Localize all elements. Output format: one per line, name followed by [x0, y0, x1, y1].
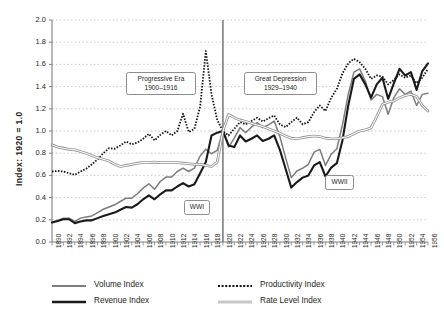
y-tick-label: 0.8 [20, 148, 46, 157]
x-tick-label: 1944 [362, 234, 369, 248]
x-tick-label: 1890 [55, 234, 62, 248]
x-tick-label: 1920 [226, 234, 233, 248]
annotation-great-depression: Great Depression1929–1940 [244, 72, 317, 95]
x-tick-label: 1938 [328, 234, 335, 248]
y-tick-label: 0.0 [20, 237, 46, 246]
axis-ticks [49, 20, 428, 246]
legend-swatches [0, 273, 444, 315]
x-tick-label: 1916 [203, 234, 210, 248]
x-tick-label: 1900 [112, 234, 119, 248]
annotation-line-1: Progressive Era [131, 75, 191, 84]
x-tick-label: 1908 [157, 234, 164, 248]
x-tick-label: 1912 [180, 234, 187, 248]
y-tick-label: 0.4 [20, 193, 46, 202]
annotation-progressive-era: Progressive Era1900–1916 [126, 72, 196, 95]
y-tick-label: 1.4 [20, 82, 46, 91]
x-tick-label: 1906 [146, 234, 153, 248]
x-tick-label: 1922 [237, 234, 244, 248]
y-tick-label: 2.0 [20, 15, 46, 24]
y-tick-label: 1.6 [20, 59, 46, 68]
annotation-line-2: 1900–1916 [131, 84, 191, 93]
x-tick-label: 1948 [385, 234, 392, 248]
y-tick-label: 0.6 [20, 170, 46, 179]
x-tick-label: 1896 [89, 234, 96, 248]
x-tick-label: 1940 [339, 234, 346, 248]
legend-item-volume-index: Volume Index [94, 280, 144, 289]
x-tick-label: 1924 [248, 234, 255, 248]
x-tick-label: 1892 [66, 234, 73, 248]
x-tick-label: 1914 [191, 234, 198, 248]
annotation-line-1: WWII [330, 178, 349, 187]
x-tick-label: 1918 [214, 234, 221, 248]
x-tick-label: 1902 [123, 234, 130, 248]
annotation-line-1: WWI [189, 203, 205, 212]
legend-item-productivity-index: Productivity Index [260, 280, 325, 289]
x-tick-label: 1942 [351, 234, 358, 248]
annotation-line-1: Great Depression [249, 75, 312, 84]
x-tick-label: 1954 [419, 234, 426, 248]
chart-container: Index: 1920 = 1.0 0.00.20.40.60.81.01.21… [0, 0, 444, 315]
chart-canvas [0, 0, 444, 315]
annotation-wwi: WWI [184, 200, 210, 215]
x-tick-label: 1928 [271, 234, 278, 248]
x-tick-label: 1956 [431, 234, 438, 248]
x-tick-label: 1950 [396, 234, 403, 248]
chart-legend: Volume IndexRevenue IndexProductivity In… [0, 273, 444, 315]
annotation-line-2: 1929–1940 [249, 84, 312, 93]
legend-item-revenue-index: Revenue Index [94, 296, 149, 305]
y-tick-label: 1.0 [20, 126, 46, 135]
x-tick-label: 1934 [305, 234, 312, 248]
y-tick-label: 1.2 [20, 104, 46, 113]
x-tick-label: 1898 [100, 234, 107, 248]
x-tick-label: 1952 [408, 234, 415, 248]
annotation-wwii: WWII [325, 175, 354, 190]
x-tick-label: 1936 [317, 234, 324, 248]
y-tick-label: 1.8 [20, 37, 46, 46]
x-tick-label: 1930 [283, 234, 290, 248]
legend-item-rate-level-index: Rate Level Index [260, 296, 321, 305]
x-tick-label: 1926 [260, 234, 267, 248]
x-tick-label: 1894 [77, 234, 84, 248]
x-tick-label: 1904 [134, 234, 141, 248]
x-tick-label: 1946 [374, 234, 381, 248]
x-tick-label: 1932 [294, 234, 301, 248]
y-tick-label: 0.2 [20, 215, 46, 224]
x-tick-label: 1910 [169, 234, 176, 248]
